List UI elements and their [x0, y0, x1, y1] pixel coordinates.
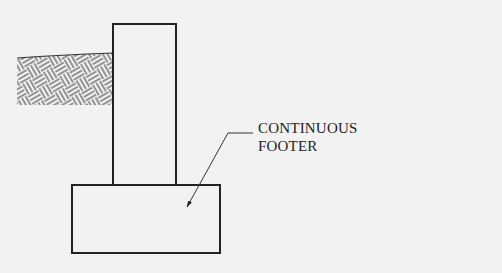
soil-hatch [17, 53, 113, 105]
callout-line-2: FOOTER [258, 137, 358, 155]
foundation-diagram [0, 0, 502, 273]
continuous-footer [72, 185, 220, 253]
foundation-wall [113, 24, 176, 185]
callout-label: CONTINUOUS FOOTER [258, 119, 358, 155]
callout-line-1: CONTINUOUS [258, 119, 358, 137]
